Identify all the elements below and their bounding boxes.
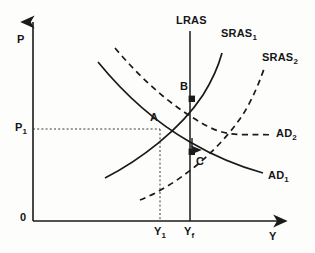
curve-label-ad1: AD1 [268,170,289,184]
curve-ad1 [98,62,263,173]
curve-label-ad1-base: AD [268,169,284,181]
point-label-a: A [150,112,158,123]
x-tick-y1-base: Y [154,225,162,237]
curve-label-sras2-base: SRAS [262,51,293,63]
curve-label-ad1-sub: 1 [284,175,289,184]
x-tick-yf-sub: f [192,231,195,240]
point-label-c: C [196,156,204,167]
point-label-b: B [180,81,188,92]
curve-label-sras1-sub: 1 [252,33,257,42]
x-axis-label: Y [269,231,277,242]
y-tick-p1-base: P [15,121,23,133]
x-tick-yf-base: Y [184,225,192,237]
curve-label-ad2: AD2 [276,128,297,142]
point-marker-b [189,96,195,102]
curve-label-lras: LRAS [176,15,207,26]
curve-label-sras2-sub: 2 [293,57,298,66]
curve-sras2 [140,66,265,200]
point-marker-c [189,149,195,155]
curve-label-sras1: SRAS1 [221,28,257,42]
curve-ad2 [115,48,272,135]
y-axis-label: P [17,34,25,45]
curve-label-ad2-base: AD [276,127,292,139]
diagram-canvas [0,0,315,253]
x-tick-label-yf: Yf [184,226,194,240]
x-tick-y1-sub: 1 [162,231,167,240]
curve-label-ad2-sub: 2 [292,133,297,142]
origin-label: 0 [20,212,26,223]
y-tick-label-p1: P1 [15,122,27,136]
curve-label-sras2: SRAS2 [262,52,298,66]
x-tick-label-y1: Y1 [154,226,166,240]
curve-label-sras1-base: SRAS [221,27,252,39]
ad-as-diagram: P Y 0 P1 Y1 Yf LRAS SRAS1 SRAS2 AD2 AD1 … [0,0,315,253]
y-tick-p1-sub: 1 [23,127,28,136]
